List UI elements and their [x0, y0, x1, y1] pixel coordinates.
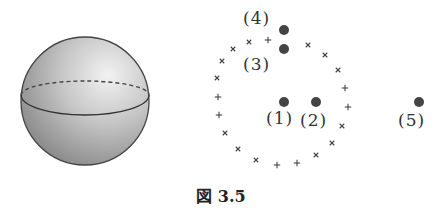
sphere-body: [21, 37, 149, 165]
point-5-dot: [414, 97, 424, 107]
plus-marker: [215, 94, 221, 100]
cross-marker: [333, 65, 342, 74]
figure-caption: 図 3.5: [0, 183, 442, 207]
cross-marker: [327, 138, 336, 147]
plus-marker: [294, 160, 300, 166]
plus-marker: [216, 112, 222, 118]
cross-marker: [212, 73, 221, 82]
point-3-dot: [279, 44, 289, 54]
cross-marker: [320, 50, 329, 59]
point-2-label: (2): [300, 110, 327, 130]
plus-marker: [342, 85, 348, 91]
labeled-points: [279, 25, 424, 107]
point-5-label: (5): [398, 110, 425, 130]
cross-marker: [244, 37, 253, 46]
figure-canvas: [0, 0, 442, 211]
point-1-label: (1): [266, 108, 293, 128]
cross-marker: [233, 144, 242, 153]
point-1-dot: [279, 97, 289, 107]
point-2-dot: [311, 97, 321, 107]
cross-marker: [311, 150, 320, 159]
cross-marker: [303, 40, 312, 49]
figure-3-5: (1)(2)(3)(4)(5) 図 3.5: [0, 0, 442, 211]
cross-marker: [337, 121, 346, 130]
point-3-label: (3): [243, 54, 270, 74]
cross-marker: [217, 56, 226, 65]
point-4-dot: [279, 25, 289, 35]
plus-marker: [274, 162, 280, 168]
plus-marker: [265, 37, 271, 43]
cross-marker: [228, 44, 237, 53]
cross-marker: [251, 155, 260, 164]
cross-marker: [220, 128, 229, 137]
sphere: [21, 37, 149, 165]
point-4-label: (4): [243, 8, 270, 28]
plus-marker: [345, 104, 351, 110]
